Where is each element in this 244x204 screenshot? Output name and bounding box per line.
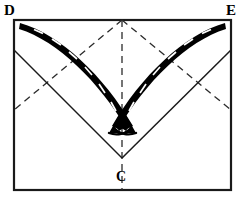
origami-fold-figure: D E C <box>0 0 244 204</box>
vertex-label-d: D <box>4 3 15 18</box>
vertex-label-e: E <box>226 3 236 18</box>
vertex-label-c: C <box>116 170 126 184</box>
